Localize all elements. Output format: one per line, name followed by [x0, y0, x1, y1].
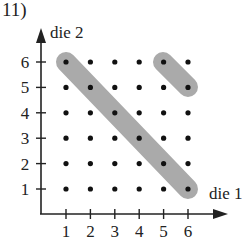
outcome-dot [112, 110, 117, 115]
dice-outcome-diagram: 11) die 2 die 1 123456123456 [0, 0, 245, 240]
outcome-dot [185, 136, 190, 141]
y-tick-label: 4 [21, 104, 30, 123]
figure-label: 11) [2, 0, 27, 21]
outcome-dot [88, 161, 93, 166]
outcome-dot [185, 59, 190, 64]
outcome-dot [137, 161, 142, 166]
outcome-dot [137, 85, 142, 90]
outcome-dot [63, 186, 68, 191]
outcome-dot [88, 85, 93, 90]
outcome-dot [185, 161, 190, 166]
outcome-dot [185, 85, 190, 90]
outcome-dot [63, 85, 68, 90]
outcome-dot [88, 110, 93, 115]
outcome-dot [185, 110, 190, 115]
y-tick-label: 2 [21, 155, 30, 174]
y-tick-label: 6 [21, 53, 30, 72]
outcome-dot [63, 161, 68, 166]
outcome-dot [185, 186, 190, 191]
outcome-dot [161, 186, 166, 191]
x-tick-label: 4 [135, 222, 144, 240]
x-tick-label: 3 [111, 222, 120, 240]
axis-ticks: 123456123456 [21, 53, 193, 240]
y-tick-label: 1 [21, 180, 30, 199]
highlight-sum-eleven [163, 62, 188, 87]
outcome-dot [161, 110, 166, 115]
outcome-dot [137, 136, 142, 141]
outcome-dot [161, 161, 166, 166]
x-axis-arrow-icon [213, 209, 228, 219]
outcome-dot [63, 136, 68, 141]
y-axis-label: die 2 [50, 23, 84, 42]
y-tick-label: 3 [21, 129, 30, 148]
outcome-dot [112, 59, 117, 64]
outcome-dot [137, 110, 142, 115]
outcome-dot [112, 186, 117, 191]
outcome-dot [63, 110, 68, 115]
outcome-dot [63, 59, 68, 64]
outcome-dot [137, 186, 142, 191]
outcome-dot [112, 85, 117, 90]
outcome-dot [161, 136, 166, 141]
y-axis-arrow-icon [36, 28, 46, 43]
outcome-dot [112, 136, 117, 141]
outcome-dot [137, 59, 142, 64]
x-tick-label: 1 [62, 222, 71, 240]
y-tick-label: 5 [21, 78, 30, 97]
outcome-dot [161, 59, 166, 64]
x-tick-label: 2 [86, 222, 95, 240]
outcome-dot [161, 85, 166, 90]
x-axis-label: die 1 [209, 184, 243, 203]
outcome-dot [88, 186, 93, 191]
outcome-dot [88, 59, 93, 64]
x-tick-label: 6 [184, 222, 193, 240]
outcome-dot [112, 161, 117, 166]
outcome-dot [88, 136, 93, 141]
x-tick-label: 5 [159, 222, 168, 240]
